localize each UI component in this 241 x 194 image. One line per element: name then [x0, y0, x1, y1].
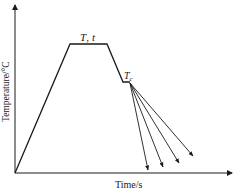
y-axis-label: Temperature/°C	[1, 61, 11, 122]
quench-temp-label: Tc	[124, 70, 134, 83]
plateau-label: T,t	[80, 31, 96, 43]
cooling-path-2	[130, 83, 163, 167]
cooling-path-4	[130, 83, 193, 156]
cooling-paths	[130, 83, 193, 170]
temperature-profile	[15, 44, 130, 173]
heat-treatment-diagram: T,t Tc Time/s Temperature/°C	[0, 0, 241, 194]
x-axis-label: Time/s	[115, 179, 143, 190]
cooling-path-1	[130, 83, 148, 170]
cooling-path-3	[130, 83, 179, 163]
